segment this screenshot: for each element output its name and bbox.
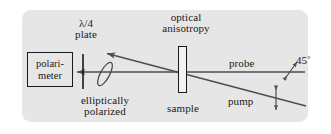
degree-symbol: ° (307, 55, 310, 64)
optical-anisotropy-label: optical anisotropy (141, 12, 231, 35)
figure-root: polari- meter λ/4 plate optical anisotro… (0, 0, 331, 134)
quarter-wave-plate-label: λ/4 plate (62, 18, 110, 41)
anisotropy-label-line2: anisotropy (141, 23, 231, 34)
polarimeter-box: polari- meter (27, 52, 73, 87)
polarimeter-label-line2: meter (38, 70, 62, 82)
sample-slab (178, 46, 187, 93)
sample-label: sample (152, 103, 214, 114)
polarimeter-label-line1: polari- (36, 58, 64, 70)
pump-label: pump (228, 96, 268, 107)
elliptically-polarized-label: elliptically polarized (54, 95, 156, 118)
probe-label: probe (229, 58, 271, 69)
qwp-label-line2: plate (62, 29, 110, 40)
angle-value: 45 (296, 54, 307, 66)
polarization-ellipse-icon (95, 60, 115, 87)
angle-45-label: 45° (296, 55, 326, 66)
elliptical-label-line2: polarized (54, 106, 156, 117)
